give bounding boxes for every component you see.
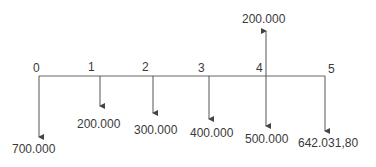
- period-label-5: 5: [328, 63, 335, 75]
- period-label-1: 1: [88, 61, 95, 73]
- period-label-4: 4: [256, 62, 263, 74]
- flow-amount-period-2-out: 300.000: [134, 124, 177, 136]
- flow-amount-period-4-in: 200.000: [242, 13, 285, 25]
- flow-amount-period-1-out: 200.000: [77, 118, 120, 130]
- flow-amount-period-0-out: 700.000: [12, 143, 55, 155]
- flow-amount-period-4-out: 500.000: [245, 133, 288, 145]
- period-label-2: 2: [142, 61, 149, 73]
- period-label-0: 0: [33, 62, 40, 74]
- flow-amount-period-5-out: 642.031,80: [298, 137, 358, 149]
- flow-amount-period-3-out: 400.000: [190, 127, 233, 139]
- period-label-3: 3: [198, 62, 205, 74]
